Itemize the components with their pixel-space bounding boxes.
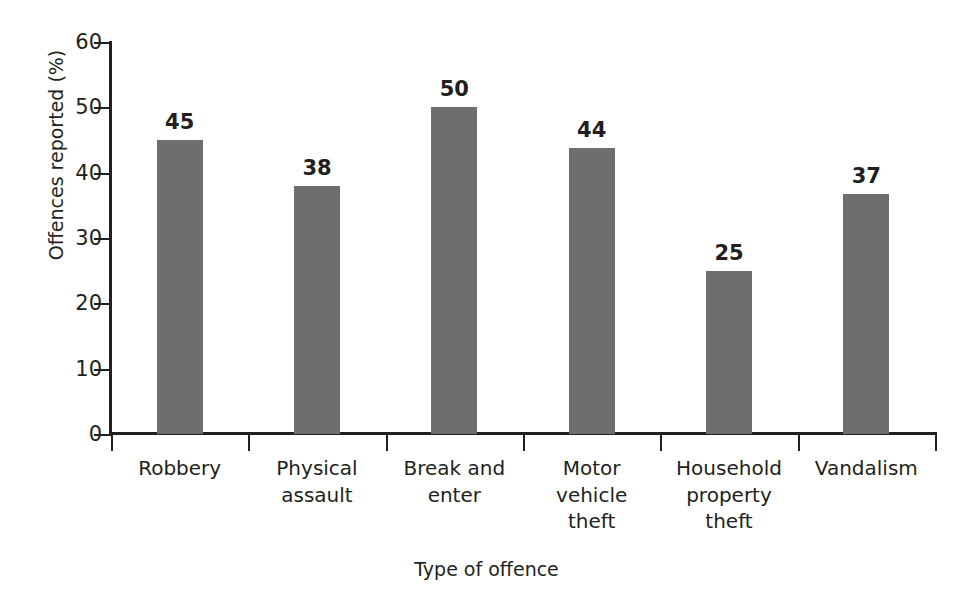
x-category-label-line: Break and bbox=[386, 455, 523, 482]
bar: 45 bbox=[157, 140, 203, 434]
x-category-label-line: Vandalism bbox=[798, 455, 935, 482]
plot-area: 0102030405060453850442537 bbox=[111, 42, 935, 434]
x-category-label: Motorvehicletheft bbox=[523, 455, 660, 535]
x-category-label-line: Household bbox=[660, 455, 797, 482]
y-axis-title: Offences reported (%) bbox=[45, 0, 67, 355]
bar-value-label: 50 bbox=[440, 79, 469, 100]
x-tick-mark bbox=[798, 434, 800, 451]
x-axis-title: Type of offence bbox=[0, 558, 973, 580]
x-category-label-line: theft bbox=[660, 508, 797, 535]
x-tick-mark bbox=[386, 434, 388, 451]
x-tick-mark bbox=[111, 434, 113, 451]
bar-value-label: 25 bbox=[714, 243, 743, 264]
bar-value-label: 45 bbox=[165, 112, 194, 133]
y-tick-label: 40 bbox=[75, 162, 102, 183]
x-category-label: Vandalism bbox=[798, 455, 935, 482]
y-tick-label: 30 bbox=[75, 228, 102, 249]
bar-value-label: 38 bbox=[302, 158, 331, 179]
x-category-label: Householdpropertytheft bbox=[660, 455, 797, 535]
y-tick-label: 10 bbox=[75, 358, 102, 379]
x-category-label-line: theft bbox=[523, 508, 660, 535]
x-category-label-line: Physical bbox=[248, 455, 385, 482]
x-category-label-line: enter bbox=[386, 482, 523, 509]
x-tick-mark bbox=[935, 434, 937, 451]
x-category-label: Robbery bbox=[111, 455, 248, 482]
x-tick-mark bbox=[523, 434, 525, 451]
bar: 25 bbox=[706, 271, 752, 434]
x-category-label-line: Robbery bbox=[111, 455, 248, 482]
bar: 37 bbox=[843, 194, 889, 434]
y-tick-label: 60 bbox=[75, 32, 102, 53]
y-tick-label: 50 bbox=[75, 97, 102, 118]
x-category-label-line: assault bbox=[248, 482, 385, 509]
x-category-label-line: vehicle bbox=[523, 482, 660, 509]
bar-chart: Offences reported (%) 010203040506045385… bbox=[0, 0, 973, 602]
x-category-label: Physicalassault bbox=[248, 455, 385, 508]
x-tick-mark bbox=[660, 434, 662, 451]
x-category-label-line: property bbox=[660, 482, 797, 509]
y-tick-label: 20 bbox=[75, 293, 102, 314]
bar: 38 bbox=[294, 186, 340, 434]
y-tick-label: 0 bbox=[89, 424, 102, 445]
bar-value-label: 44 bbox=[577, 120, 606, 141]
bar: 50 bbox=[431, 107, 477, 434]
bar-value-label: 37 bbox=[852, 166, 881, 187]
x-category-label: Break andenter bbox=[386, 455, 523, 508]
x-tick-mark bbox=[248, 434, 250, 451]
bar: 44 bbox=[569, 148, 615, 434]
x-category-label-line: Motor bbox=[523, 455, 660, 482]
